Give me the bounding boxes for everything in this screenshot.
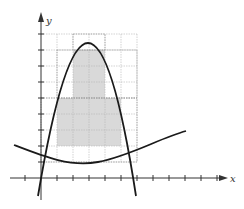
axes: x y (10, 12, 236, 200)
area-between-curves-diagram: x y (0, 0, 244, 209)
x-axis-arrow-icon (219, 175, 228, 181)
y-axis-label: y (45, 15, 52, 26)
x-axis-label: x (230, 173, 236, 184)
y-axis-arrow-icon (38, 12, 44, 22)
shaded-rect (57, 98, 73, 146)
